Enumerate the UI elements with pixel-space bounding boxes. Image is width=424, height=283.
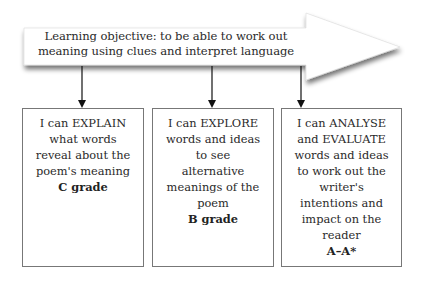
- box-text: intentions and: [282, 195, 401, 211]
- box-text: meanings of the: [153, 179, 273, 195]
- box-text: poem: [153, 195, 273, 211]
- box-c-grade: I can EXPLAIN what words reveal about th…: [22, 108, 144, 267]
- box-text: to see: [153, 147, 273, 163]
- box-text: I can ANALYSE: [282, 115, 401, 131]
- box-b-grade: I can EXPLORE words and ideas to see alt…: [152, 108, 274, 267]
- objective-line-1: Learning objective: to be able to work o…: [24, 29, 308, 44]
- box-text: I can EXPLAIN: [23, 115, 143, 131]
- box-text: reveal about the: [23, 147, 143, 163]
- box-text: to work out the: [282, 163, 401, 179]
- box-text: impact on the: [282, 211, 401, 227]
- box-text: and EVALUATE: [282, 131, 401, 147]
- learning-objective: Learning objective: to be able to work o…: [24, 29, 308, 58]
- box-text: what words: [23, 131, 143, 147]
- arrowheads: [0, 95, 424, 109]
- box-text: alternative: [153, 163, 273, 179]
- box-text: words and ideas: [153, 131, 273, 147]
- box-text: poem's meaning: [23, 163, 143, 179]
- grade-label: A–A*: [282, 243, 401, 259]
- box-text: I can EXPLORE: [153, 115, 273, 131]
- grade-label: B grade: [153, 211, 273, 227]
- box-text: writer's: [282, 179, 401, 195]
- objective-line-2: meaning using clues and interpret langua…: [24, 44, 308, 59]
- grade-label: C grade: [23, 179, 143, 195]
- box-text: reader: [282, 227, 401, 243]
- box-text: words and ideas: [282, 147, 401, 163]
- box-a-grade: I can ANALYSE and EVALUATE words and ide…: [281, 108, 402, 267]
